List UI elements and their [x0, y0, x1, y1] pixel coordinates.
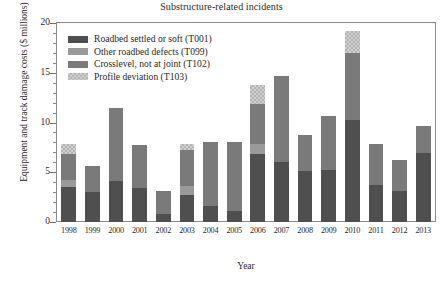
y-minor-tick-mark: [53, 63, 56, 64]
legend-swatch-t001: [68, 36, 88, 43]
bar-segment-t001: [345, 120, 360, 222]
y-minor-tick-mark: [53, 53, 56, 54]
y-minor-tick-mark: [53, 113, 56, 114]
legend-label: Crosslevel, not at joint (T102): [94, 59, 210, 69]
y-tick-label: 15: [24, 68, 50, 78]
x-axis-label: Year: [56, 261, 436, 271]
legend-swatch-t099: [68, 48, 88, 55]
bar-segment-t001: [227, 211, 242, 222]
legend-swatch-t102: [68, 61, 88, 68]
bar-segment-t102: [369, 144, 384, 185]
bar-segment-t102: [227, 142, 242, 211]
bar-segment-t099: [250, 144, 265, 154]
y-minor-tick-mark: [53, 182, 56, 183]
y-minor-tick-mark: [53, 43, 56, 44]
bar-stack: [321, 23, 336, 222]
y-minor-tick-mark: [53, 83, 56, 84]
bar-segment-t102: [203, 142, 218, 206]
y-minor-tick-mark: [53, 162, 56, 163]
bar-segment-t103: [250, 85, 265, 104]
bar-segment-t102: [61, 154, 76, 180]
bar-segment-t001: [416, 153, 431, 222]
y-minor-tick-mark: [53, 212, 56, 213]
bar-segment-t001: [321, 170, 336, 222]
y-tick-label: 5: [24, 167, 50, 177]
bar-segment-t001: [369, 185, 384, 222]
bar-segment-t102: [298, 135, 313, 171]
bar-segment-t001: [298, 171, 313, 222]
x-tick-label: 2013: [408, 226, 438, 235]
y-tick-label: 20: [24, 18, 50, 28]
bar-stack: [392, 23, 407, 222]
y-minor-tick-mark: [53, 142, 56, 143]
y-minor-tick-mark: [53, 192, 56, 193]
chart-legend: Roadbed settled or soft (T001)Other road…: [68, 33, 298, 83]
bar-segment-t102: [132, 145, 147, 188]
legend-item: Other roadbed defects (T099): [68, 46, 298, 59]
bar-segment-t103: [180, 144, 195, 150]
bar-segment-t099: [180, 186, 195, 195]
y-axis-tick-labels: 05101520: [20, 0, 50, 284]
bar-segment-t102: [180, 150, 195, 186]
y-tick-mark: [50, 23, 56, 24]
bar-stack: [416, 23, 431, 222]
y-minor-tick-mark: [53, 152, 56, 153]
bar-segment-t103: [345, 31, 360, 53]
y-tick-label: 10: [24, 118, 50, 128]
legend-item: Roadbed settled or soft (T001): [68, 33, 298, 46]
bar-segment-t102: [109, 108, 124, 182]
chart-title: Substructure-related incidents: [0, 1, 443, 12]
bar-segment-t102: [156, 191, 171, 214]
legend-label: Other roadbed defects (T099): [94, 47, 208, 57]
bar-segment-t001: [250, 154, 265, 222]
bar-segment-t001: [180, 195, 195, 222]
legend-item: Crosslevel, not at joint (T102): [68, 58, 298, 71]
y-minor-tick-mark: [53, 33, 56, 34]
bar-segment-t001: [203, 206, 218, 222]
bar-segment-t001: [132, 188, 147, 222]
bar-segment-t001: [109, 181, 124, 222]
bar-segment-t102: [392, 160, 407, 191]
y-tick-mark: [50, 172, 56, 173]
legend-label: Profile deviation (T103): [94, 72, 187, 82]
y-minor-tick-mark: [53, 132, 56, 133]
chart-figure: Substructure-related incidents Equipment…: [0, 0, 443, 284]
y-minor-tick-mark: [53, 103, 56, 104]
bar-segment-t001: [274, 162, 289, 222]
legend-swatch-t103: [68, 73, 88, 80]
bar-segment-t103: [61, 144, 76, 154]
y-minor-tick-mark: [53, 202, 56, 203]
bar-segment-t102: [345, 53, 360, 120]
legend-item: Profile deviation (T103): [68, 71, 298, 84]
bar-segment-t001: [85, 192, 100, 222]
bar-segment-t102: [274, 76, 289, 163]
bar-segment-t102: [250, 104, 265, 145]
bar-stack: [345, 23, 360, 222]
bar-segment-t102: [416, 126, 431, 154]
bar-segment-t102: [321, 116, 336, 171]
bar-segment-t001: [61, 187, 76, 222]
y-tick-mark: [50, 123, 56, 124]
bar-segment-t099: [61, 180, 76, 187]
y-tick-label: 0: [24, 217, 50, 227]
y-minor-tick-mark: [53, 93, 56, 94]
legend-label: Roadbed settled or soft (T001): [94, 34, 212, 44]
bar-stack: [298, 23, 313, 222]
y-tick-mark: [50, 73, 56, 74]
y-tick-mark: [50, 222, 56, 223]
bar-segment-t102: [85, 166, 100, 192]
bar-stack: [369, 23, 384, 222]
bar-segment-t001: [392, 191, 407, 222]
bar-segment-t001: [156, 214, 171, 222]
